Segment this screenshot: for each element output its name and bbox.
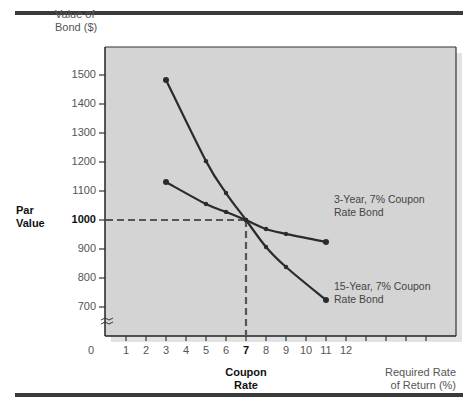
- x-tick-label: 6: [216, 344, 236, 356]
- y-tick-label: 1100: [56, 184, 96, 196]
- data-point: [264, 245, 268, 249]
- data-point: [323, 297, 329, 303]
- coupon-line2: Rate: [216, 379, 276, 392]
- x-tick-label: 8: [256, 344, 276, 356]
- data-point: [204, 202, 208, 206]
- data-point: [163, 179, 169, 185]
- coupon-rate-annotation: Coupon Rate: [216, 366, 276, 392]
- x-tick-label: 12: [336, 344, 356, 356]
- data-point: [323, 239, 329, 245]
- x-tick-label: 3: [156, 344, 176, 356]
- legend-15-year-line1: 15-Year, 7% Coupon: [334, 280, 431, 293]
- y-tick-label: 1200: [56, 155, 96, 167]
- x-tick-label: 2: [136, 344, 156, 356]
- legend-15-year: 15-Year, 7% Coupon Rate Bond: [334, 280, 431, 306]
- x-tick-label: 11: [316, 344, 336, 356]
- x-tick-label: 10: [296, 344, 316, 356]
- data-point: [163, 77, 169, 83]
- x-axis-title: Required Rate of Return (%): [360, 366, 456, 392]
- x-tick-label: 9: [276, 344, 296, 356]
- data-point: [284, 265, 288, 269]
- y-tick-label: 1000: [56, 213, 96, 225]
- legend-3-year-line1: 3-Year, 7% Coupon: [334, 193, 425, 206]
- x-tick-label: 1: [116, 344, 136, 356]
- x-axis-title-line2: of Return (%): [360, 379, 456, 392]
- data-point: [244, 218, 248, 222]
- y-tick-label: 1500: [56, 68, 96, 80]
- y-tick-label: 800: [56, 271, 96, 283]
- y-tick-label: 900: [56, 242, 96, 254]
- x-axis-title-line1: Required Rate: [360, 366, 456, 379]
- data-point: [264, 227, 268, 231]
- legend-3-year-line2: Rate Bond: [334, 206, 425, 219]
- coupon-line1: Coupon: [216, 366, 276, 379]
- legend-15-year-line2: Rate Bond: [334, 293, 431, 306]
- data-point: [204, 159, 208, 163]
- data-point: [224, 191, 228, 195]
- x-tick-label: 4: [176, 344, 196, 356]
- y-tick-label: 700: [56, 300, 96, 312]
- data-point: [284, 232, 288, 236]
- y-tick-label: 1400: [56, 97, 96, 109]
- x-tick-label: 7: [236, 344, 256, 356]
- y-ticks: [99, 75, 105, 307]
- legend-3-year: 3-Year, 7% Coupon Rate Bond: [334, 193, 425, 219]
- y-tick-label: 1300: [56, 126, 96, 138]
- x-tick-label: 5: [196, 344, 216, 356]
- x-origin-label: 0: [88, 344, 94, 356]
- data-point: [224, 210, 228, 214]
